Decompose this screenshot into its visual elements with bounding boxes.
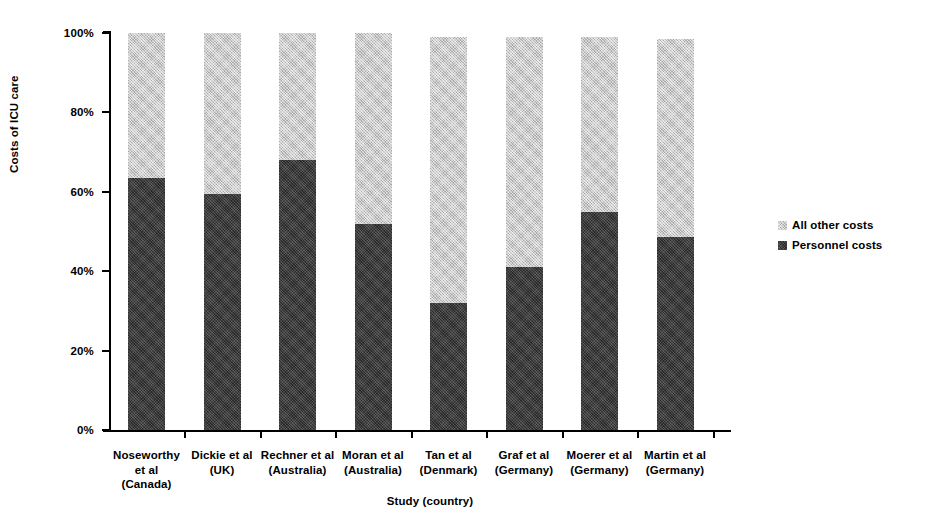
bar-stack[interactable] — [430, 37, 467, 430]
y-axis-tick-mark — [102, 111, 110, 113]
bar-segment-all-other-costs[interactable] — [506, 37, 543, 267]
y-axis-tick-mark — [102, 429, 110, 431]
bar-segment-all-other-costs[interactable] — [279, 33, 316, 160]
y-axis-tick-mark — [102, 191, 110, 193]
y-axis-tick-label: 60% — [32, 186, 94, 198]
bar-segment-all-other-costs[interactable] — [581, 37, 618, 212]
chart-legend: All other costsPersonnel costs — [778, 215, 882, 255]
bar-segment-personnel-costs[interactable] — [430, 303, 467, 430]
bar-segment-personnel-costs[interactable] — [279, 160, 316, 430]
legend-swatch-icon — [778, 241, 787, 250]
bar-segment-personnel-costs[interactable] — [657, 237, 694, 430]
legend-entry-label: Personnel costs — [792, 239, 882, 251]
y-axis-tick-label: 80% — [32, 106, 94, 118]
legend-entry-label: All other costs — [792, 219, 873, 231]
x-axis-category-label-line: (Germany) — [630, 463, 720, 478]
x-axis-title: Study (country) — [0, 495, 860, 507]
bar-segment-all-other-costs[interactable] — [204, 33, 241, 194]
y-axis-tick-label: 40% — [32, 265, 94, 277]
y-axis-tick-label: 20% — [32, 345, 94, 357]
y-axis-tick-mark — [102, 270, 110, 272]
bar-stack[interactable] — [506, 37, 543, 430]
bar-segment-personnel-costs[interactable] — [128, 178, 165, 430]
x-axis-tick-mark — [486, 431, 488, 438]
bar-segment-all-other-costs[interactable] — [657, 39, 694, 238]
x-axis-tick-mark — [713, 431, 715, 438]
y-axis-tick-label: 100% — [32, 27, 94, 39]
bar-segment-all-other-costs[interactable] — [128, 33, 165, 178]
y-axis-tick-label: 0% — [32, 424, 94, 436]
y-axis-tick-mark — [102, 350, 110, 352]
x-axis-tick-mark — [184, 431, 186, 438]
legend-entry[interactable]: Personnel costs — [778, 235, 882, 255]
y-axis-tick-mark — [102, 32, 110, 34]
bar-stack[interactable] — [204, 33, 241, 430]
x-axis-tick-mark — [411, 431, 413, 438]
bar-stack[interactable] — [657, 39, 694, 430]
bar-segment-personnel-costs[interactable] — [204, 194, 241, 430]
x-axis-tick-mark — [637, 431, 639, 438]
y-axis-title: Costs of ICU care — [8, 0, 28, 173]
bar-segment-personnel-costs[interactable] — [506, 267, 543, 430]
stacked-bar-chart: Costs of ICU care 100%80%60%40%20%0% Nos… — [0, 0, 933, 525]
x-axis-tick-mark — [562, 431, 564, 438]
bar-segment-personnel-costs[interactable] — [581, 212, 618, 430]
legend-entry[interactable]: All other costs — [778, 215, 882, 235]
plot-area — [110, 33, 730, 430]
x-axis-tick-mark — [260, 431, 262, 438]
bar-stack[interactable] — [355, 33, 392, 430]
bar-segment-all-other-costs[interactable] — [355, 33, 392, 224]
bar-stack[interactable] — [581, 37, 618, 430]
bar-segment-all-other-costs[interactable] — [430, 37, 467, 303]
x-axis-tick-mark — [335, 431, 337, 438]
x-axis-category-label: Martin et al(Germany) — [630, 448, 720, 477]
x-axis-category-label-line: Martin et al — [630, 448, 720, 463]
bar-stack[interactable] — [128, 33, 165, 430]
legend-swatch-icon — [778, 221, 787, 230]
bar-segment-personnel-costs[interactable] — [355, 224, 392, 430]
bar-stack[interactable] — [279, 33, 316, 430]
x-axis-category-label-line: (Canada) — [102, 477, 192, 492]
